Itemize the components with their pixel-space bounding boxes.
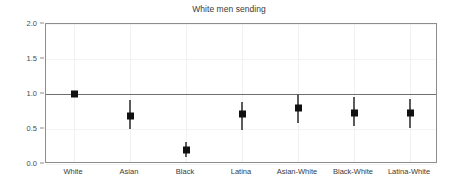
chart-title: White men sending	[0, 4, 458, 14]
x-axis-tick-label: Latina-White	[388, 167, 430, 176]
chart-figure: White men sending 0.00.51.01.52.0 WhiteA…	[0, 0, 458, 187]
gridline-horizontal	[46, 164, 436, 165]
gridline-vertical	[130, 24, 131, 162]
x-axis-tick-label: Asian-White	[277, 167, 317, 176]
y-axis-tick-mark	[40, 93, 44, 94]
y-axis-tick-mark	[40, 58, 44, 59]
gridline-vertical	[242, 24, 243, 162]
point-marker	[407, 109, 414, 116]
gridline-vertical	[354, 24, 355, 162]
y-axis-tick-mark	[40, 23, 44, 24]
reference-line	[46, 94, 436, 95]
y-axis-tick-mark	[40, 128, 44, 129]
plot-area	[45, 23, 437, 163]
x-axis-tick-label: White	[63, 167, 82, 176]
x-axis-tick-label: Latina	[231, 167, 251, 176]
x-axis-tick-label: Black-White	[333, 167, 373, 176]
gridline-vertical	[186, 24, 187, 162]
x-axis-labels: WhiteAsianBlackLatinaAsian-WhiteBlack-Wh…	[45, 167, 437, 181]
gridline-horizontal	[46, 59, 436, 60]
gridline-horizontal	[46, 24, 436, 25]
point-marker	[239, 110, 246, 117]
gridline-vertical	[410, 24, 411, 162]
point-marker	[351, 109, 358, 116]
y-axis-ticks	[0, 23, 45, 163]
point-marker	[183, 147, 190, 154]
point-marker	[127, 113, 134, 120]
gridline-vertical	[298, 24, 299, 162]
x-axis-tick-label: Black	[176, 167, 194, 176]
point-marker	[295, 105, 302, 112]
x-axis-tick-label: Asian	[120, 167, 139, 176]
y-axis-tick-mark	[40, 163, 44, 164]
point-marker	[71, 91, 78, 98]
